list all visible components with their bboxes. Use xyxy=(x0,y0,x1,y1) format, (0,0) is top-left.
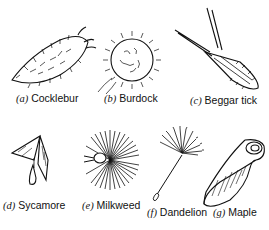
maple-seed-icon xyxy=(0,0,269,230)
caption-maple: (g) Maple xyxy=(213,206,257,218)
